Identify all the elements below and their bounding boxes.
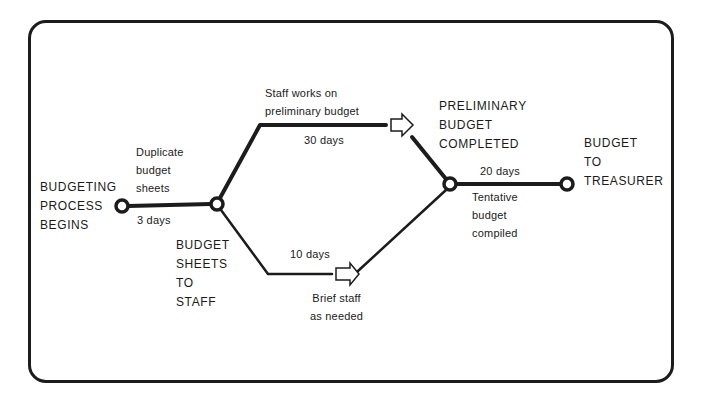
- node-label-sheets: BUDGET SHEETS TO STAFF: [176, 236, 230, 312]
- arrow-icon: [336, 263, 359, 285]
- activity-duration-tentative: 20 days: [480, 162, 520, 180]
- activity-desc-brief-staff: Brief staff as needed: [310, 289, 363, 325]
- edge-sheets-bottom: [221, 210, 332, 274]
- node-label-start: BUDGETING PROCESS BEGINS: [40, 178, 117, 235]
- node-start-icon: [116, 200, 128, 212]
- activity-duration-staff-works: 30 days: [304, 131, 344, 149]
- edge-bottom-prelim: [358, 190, 446, 271]
- node-label-treasurer: BUDGET TO TREASURER: [584, 134, 663, 191]
- node-prelim-icon: [444, 178, 456, 190]
- activity-duration-duplicate: 3 days: [137, 211, 171, 229]
- arrow-icon: [391, 114, 413, 136]
- node-label-prelim: PRELIMINARY BUDGET COMPLETED: [439, 97, 527, 154]
- edge-sheets-top: [220, 125, 386, 198]
- activity-desc-duplicate: Duplicate budget sheets: [136, 143, 184, 197]
- node-treasurer-icon: [561, 178, 573, 190]
- activity-desc-staff-works: Staff works on preliminary budget: [265, 84, 359, 120]
- node-sheets-icon: [211, 198, 223, 210]
- edge-start-sheets: [128, 204, 211, 206]
- activity-desc-tentative: Tentative budget compiled: [472, 188, 518, 242]
- activity-duration-brief-staff: 10 days: [290, 245, 330, 263]
